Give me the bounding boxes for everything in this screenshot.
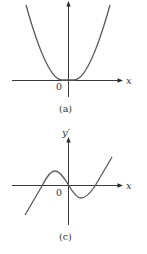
graph-c-origin-label: 0: [56, 187, 62, 198]
graph-a-x-arrow-icon: [118, 78, 124, 82]
graph-a-x-label: x: [126, 75, 132, 86]
figure-canvas: x 0 (a) y′ x 0 (c): [0, 0, 147, 254]
graph-c-caption: (c): [59, 231, 72, 242]
graph-a: x 0 (a): [12, 1, 132, 114]
graph-c-y-label: y′: [61, 127, 71, 138]
graph-a-caption: (a): [59, 103, 72, 114]
graph-c-x-arrow-icon: [118, 183, 124, 187]
graph-c-x-label: x: [126, 180, 132, 191]
graph-a-origin-label: 0: [56, 81, 62, 92]
graph-a-y-arrow-icon: [66, 1, 70, 7]
graph-c: y′ x 0 (c): [12, 127, 132, 242]
